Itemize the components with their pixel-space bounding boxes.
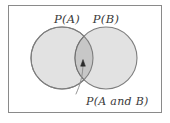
label-intersection: P(A and B) bbox=[85, 95, 149, 108]
label-set-b: P(B) bbox=[92, 12, 119, 26]
label-set-a: P(A) bbox=[53, 12, 80, 26]
venn-diagram-figure: P(A) P(B) P(A and B) bbox=[0, 0, 170, 123]
venn-diagram-canvas: P(A) P(B) P(A and B) bbox=[0, 0, 170, 123]
